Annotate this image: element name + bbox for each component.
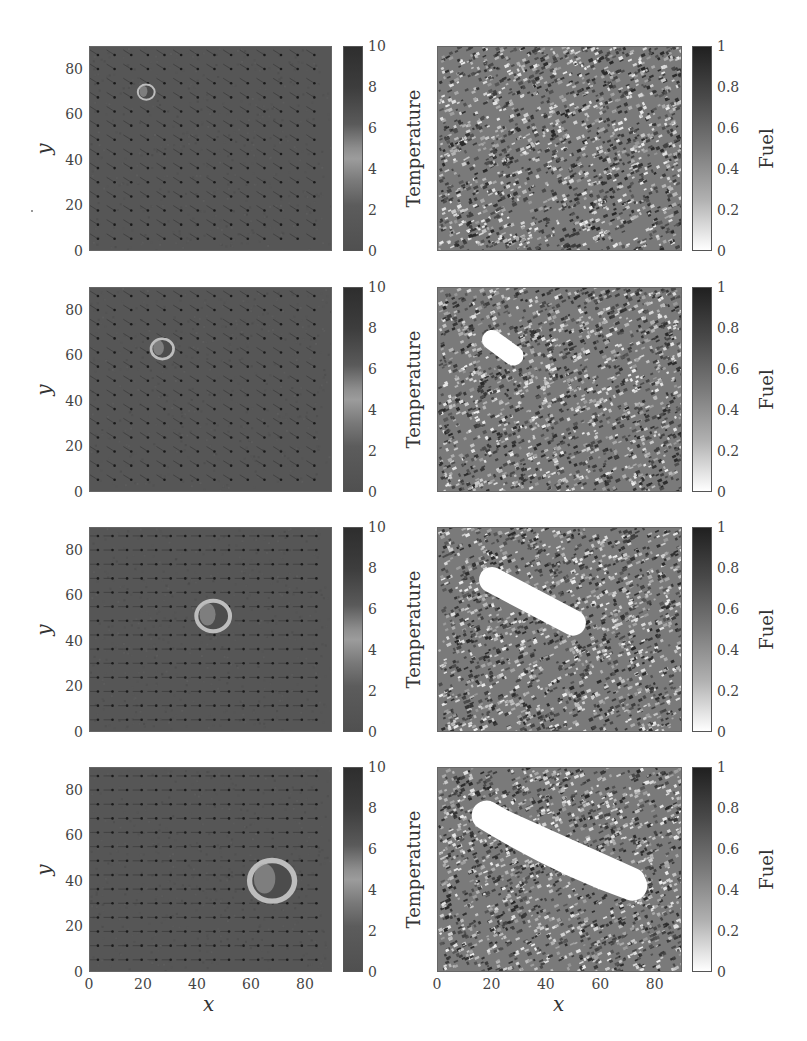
- fuel-colorbar: [692, 287, 712, 492]
- temperature-heatmap-row-1: [89, 46, 332, 251]
- fuel-colorbar-tick: 0.2: [717, 203, 739, 217]
- x-tick-label-left: 40: [182, 977, 212, 991]
- y-axis-label: y: [32, 143, 56, 154]
- fuel-colorbar-tick: 0.2: [717, 924, 739, 938]
- wind-arrows: [90, 47, 331, 250]
- temperature-colorbar-tick: 2: [368, 924, 377, 938]
- temperature-colorbar-tick: 4: [368, 162, 377, 176]
- y-tick-label: 20: [53, 198, 83, 212]
- fuel-colorbar-tick: 0: [717, 244, 726, 258]
- temperature-colorbar-label: Temperature: [403, 570, 424, 688]
- y-tick-label: 40: [53, 394, 83, 408]
- temperature-colorbar-tick: 0: [368, 244, 377, 258]
- fuel-colorbar-tick: 0.6: [717, 842, 739, 856]
- temperature-colorbar-tick: 4: [368, 403, 377, 417]
- temperature-colorbar-tick: 6: [368, 121, 377, 135]
- x-tick-label-right: 0: [422, 977, 452, 991]
- y-tick-label: 80: [53, 62, 83, 76]
- x-tick-label-left: 80: [290, 977, 320, 991]
- x-tick-label-right: 40: [531, 977, 561, 991]
- fuel-colorbar-tick: 0.8: [717, 321, 739, 335]
- fuel-colorbar-tick: 0.8: [717, 561, 739, 575]
- x-tick-label-left: 20: [128, 977, 158, 991]
- temperature-colorbar-tick: 2: [368, 684, 377, 698]
- temperature-colorbar-tick: 6: [368, 602, 377, 616]
- temperature-colorbar-tick: 2: [368, 444, 377, 458]
- temperature-colorbar-tick: 8: [368, 801, 377, 815]
- y-tick-label: 0: [53, 725, 83, 739]
- y-tick-label: 60: [53, 828, 83, 842]
- wind-arrows: [90, 528, 331, 731]
- temperature-colorbar-tick: 0: [368, 485, 377, 499]
- fuel-colorbar: [692, 46, 712, 251]
- temperature-colorbar-tick: 10: [368, 280, 386, 294]
- y-tick-label: 40: [53, 874, 83, 888]
- fuel-colorbar-tick: 1: [717, 280, 726, 294]
- fuel-colorbar-tick: 0.6: [717, 602, 739, 616]
- temperature-colorbar: [343, 287, 363, 492]
- wind-arrows: [90, 288, 331, 491]
- fuel-colorbar-tick: 1: [717, 520, 726, 534]
- y-tick-label: 20: [53, 679, 83, 693]
- x-tick-label-left: 60: [236, 977, 266, 991]
- temperature-colorbar-tick: 4: [368, 643, 377, 657]
- x-axis-label-left: x: [203, 992, 214, 1016]
- temperature-colorbar-label: Temperature: [403, 330, 424, 448]
- fuel-heatmap-row-4: [437, 767, 682, 972]
- fuel-colorbar-tick: 0.4: [717, 643, 739, 657]
- temperature-colorbar-label: Temperature: [403, 810, 424, 928]
- y-tick-label: 20: [53, 919, 83, 933]
- temperature-colorbar-tick: 4: [368, 883, 377, 897]
- fuel-colorbar-tick: 0.8: [717, 80, 739, 94]
- fuel-colorbar-label: Fuel: [756, 609, 777, 650]
- x-tick-label-right: 80: [640, 977, 670, 991]
- y-tick-label: 20: [53, 439, 83, 453]
- temperature-colorbar: [343, 46, 363, 251]
- fuel-colorbar-tick: 0.4: [717, 403, 739, 417]
- temperature-colorbar-tick: 10: [368, 520, 386, 534]
- temperature-colorbar-tick: 6: [368, 362, 377, 376]
- fuel-noise: [438, 768, 681, 971]
- fuel-heatmap-row-2: [437, 287, 682, 492]
- fuel-colorbar: [692, 527, 712, 732]
- fuel-heatmap-row-1: [437, 46, 682, 251]
- y-tick-label: 0: [53, 244, 83, 258]
- stray-dot: [31, 210, 33, 212]
- y-axis-label: y: [32, 624, 56, 635]
- y-tick-label: 60: [53, 348, 83, 362]
- fuel-colorbar-tick: 1: [717, 39, 726, 53]
- y-tick-label: 40: [53, 153, 83, 167]
- fuel-colorbar-tick: 0.6: [717, 362, 739, 376]
- temperature-colorbar-tick: 8: [368, 80, 377, 94]
- temperature-colorbar-tick: 8: [368, 561, 377, 575]
- fuel-colorbar-tick: 0.4: [717, 883, 739, 897]
- fuel-noise: [438, 528, 681, 731]
- fuel-colorbar-tick: 0.6: [717, 121, 739, 135]
- y-tick-label: 0: [53, 485, 83, 499]
- fuel-colorbar-tick: 1: [717, 760, 726, 774]
- temperature-colorbar-tick: 10: [368, 39, 386, 53]
- fuel-colorbar-tick: 0.2: [717, 444, 739, 458]
- temperature-colorbar-tick: 8: [368, 321, 377, 335]
- fuel-colorbar-tick: 0.8: [717, 801, 739, 815]
- fuel-noise: [438, 47, 681, 250]
- temperature-colorbar-tick: 0: [368, 725, 377, 739]
- temperature-heatmap-row-4: [89, 767, 332, 972]
- y-tick-label: 80: [53, 543, 83, 557]
- fuel-colorbar-tick: 0: [717, 725, 726, 739]
- y-tick-label: 80: [53, 303, 83, 317]
- fuel-colorbar-label: Fuel: [756, 128, 777, 169]
- fuel-colorbar-tick: 0: [717, 485, 726, 499]
- temperature-colorbar-label: Temperature: [403, 89, 424, 207]
- fuel-heatmap-row-3: [437, 527, 682, 732]
- temperature-colorbar-tick: 2: [368, 203, 377, 217]
- x-tick-label-right: 60: [585, 977, 615, 991]
- fuel-colorbar-tick: 0.2: [717, 684, 739, 698]
- fuel-colorbar-tick: 0.4: [717, 162, 739, 176]
- temperature-colorbar-tick: 6: [368, 842, 377, 856]
- fuel-noise: [438, 288, 681, 491]
- temperature-heatmap-row-2: [89, 287, 332, 492]
- fuel-colorbar-label: Fuel: [756, 849, 777, 890]
- fuel-colorbar-label: Fuel: [756, 369, 777, 410]
- temperature-colorbar-tick: 10: [368, 760, 386, 774]
